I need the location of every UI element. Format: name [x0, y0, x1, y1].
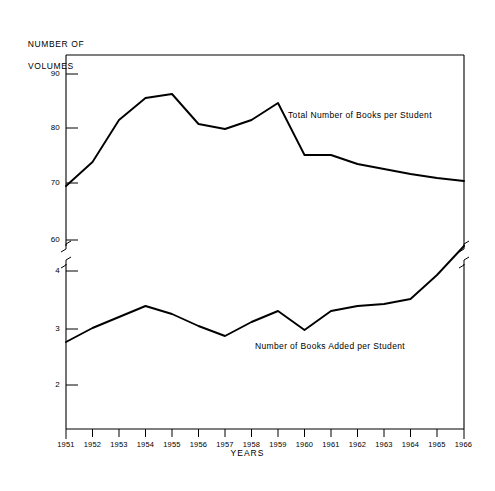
series-annotation-added: Number of Books Added per Student [255, 341, 405, 351]
y-axis-title-line1: NUMBER OF [28, 39, 84, 49]
x-axis-title: YEARS [0, 448, 495, 459]
chart-figure: NUMBER OF VOLUMES [0, 0, 495, 491]
ytick-label-60: 60 [30, 235, 60, 244]
ytick-label-2: 2 [30, 380, 60, 389]
series-line-added [66, 246, 464, 342]
series-annotation-total: Total Number of Books per Student [288, 110, 432, 120]
ytick-label-80: 80 [30, 123, 60, 132]
series-line-total [66, 94, 464, 186]
ytick-label-90: 90 [30, 69, 60, 78]
x-tick-marks [66, 429, 464, 439]
ytick-label-4: 4 [30, 266, 60, 275]
ytick-label-3: 3 [30, 324, 60, 333]
y-axis-title: NUMBER OF VOLUMES [16, 28, 84, 94]
ytick-label-70: 70 [30, 178, 60, 187]
